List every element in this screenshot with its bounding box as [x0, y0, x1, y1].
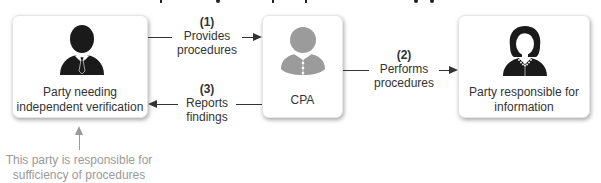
connector-label-line: Reports — [181, 96, 233, 110]
connector-label-line: Performs — [372, 62, 436, 76]
arrow-right-icon — [449, 66, 458, 74]
annotation-text: This party is responsible for sufficienc… — [0, 153, 158, 183]
connector-label-line: Provides — [175, 29, 239, 43]
step-number: (1) — [175, 15, 239, 29]
node-label: Party responsible for information — [459, 85, 589, 115]
title-descenders — [150, 0, 450, 5]
arrow-left-icon — [148, 100, 157, 108]
connector-label-line: findings — [181, 110, 233, 124]
connector-label: (1) Provides procedures — [172, 15, 242, 57]
node-label: Party needing independent verification — [13, 85, 147, 115]
node-cpa: CPA — [262, 15, 343, 118]
annotation-line: This party is responsible for — [0, 153, 158, 168]
node-label-line: Party needing — [13, 85, 147, 100]
node-label-line: information — [459, 100, 589, 115]
connector-label-line: procedures — [372, 76, 436, 90]
connector-label-line: procedures — [175, 43, 239, 57]
annotation-line: sufficiency of procedures — [0, 168, 158, 183]
arrow-right-icon — [253, 33, 262, 41]
connector-label: (3) Reports findings — [178, 82, 236, 124]
node-label: CPA — [263, 93, 342, 108]
step-number: (2) — [372, 48, 436, 62]
businesswoman-icon — [500, 24, 550, 78]
node-party-responsible-for-information: Party responsible for information — [458, 15, 590, 118]
node-label-line: CPA — [263, 93, 342, 108]
node-party-needing-verification: Party needing independent verification — [12, 15, 148, 118]
businessman-icon — [58, 25, 106, 77]
cpa-person-icon — [277, 25, 329, 77]
step-number: (3) — [181, 82, 233, 96]
node-label-line: Party responsible for — [459, 85, 589, 100]
connector-label: (2) Performs procedures — [369, 48, 439, 90]
node-label-line: independent verification — [13, 100, 147, 115]
